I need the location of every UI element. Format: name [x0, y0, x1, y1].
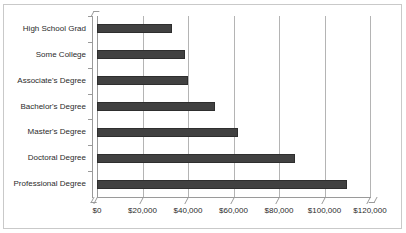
bar: [97, 180, 347, 189]
category-label: Associate's Degree: [17, 76, 86, 86]
category-axis-tick: [88, 171, 93, 172]
category-label: Master's Degree: [28, 127, 86, 137]
category-label: Bachelor's Degree: [20, 102, 86, 112]
category-label: High School Grad: [23, 24, 86, 34]
gridline: [325, 16, 326, 197]
gridline: [234, 16, 235, 197]
bar: [97, 24, 172, 33]
category-label-column: High School GradSome CollegeAssociate's …: [0, 0, 86, 233]
category-label: Some College: [36, 50, 86, 60]
bar: [97, 50, 185, 59]
bar: [97, 102, 215, 111]
category-axis-tick: [88, 94, 93, 95]
value-axis-label: $100,000: [299, 206, 351, 216]
value-axis-label: $20,000: [117, 206, 169, 216]
bar: [97, 76, 188, 85]
bar: [97, 128, 238, 137]
value-axis-label: $80,000: [253, 206, 305, 216]
gridline: [279, 16, 280, 197]
category-label: Doctoral Degree: [28, 153, 86, 163]
category-axis-tick: [88, 42, 93, 43]
category-axis-tick: [88, 68, 93, 69]
value-axis-label: $60,000: [208, 206, 260, 216]
gridline: [370, 16, 371, 197]
plot-area: [97, 16, 370, 197]
value-axis-label: $0: [71, 206, 123, 216]
value-axis-label: $40,000: [162, 206, 214, 216]
category-label: Professional Degree: [14, 179, 86, 189]
bar: [97, 154, 295, 163]
category-axis-tick: [88, 119, 93, 120]
value-axis-label: $120,000: [344, 206, 396, 216]
category-axis-tick: [88, 16, 93, 17]
category-axis-tick: [88, 145, 93, 146]
chart-screenshot: High School GradSome CollegeAssociate's …: [0, 0, 406, 233]
